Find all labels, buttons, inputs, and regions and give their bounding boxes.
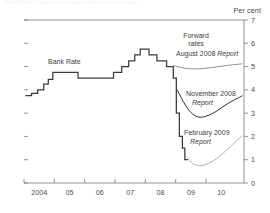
y-axis-tick-label: 1: [251, 155, 255, 164]
x-axis-tick-label: 07: [126, 188, 134, 197]
november-report-annotation-line2: Report: [192, 99, 214, 107]
august-report-annotation: August 2008 Report: [176, 50, 239, 58]
y-axis-tick-label: 5: [251, 62, 255, 71]
y-axis-tick-label: 3: [251, 109, 255, 118]
february-report-annotation-line1: February 2009: [184, 129, 230, 137]
february-report-annotation-line2: Report: [190, 138, 212, 146]
y-axis-tick-label: 2: [251, 132, 255, 141]
series-line-1: [173, 64, 242, 69]
labels-layer: 012345672004050607080910: [31, 16, 255, 197]
august-report-italic: Report: [217, 50, 239, 58]
y-axis-tick-label: 6: [251, 39, 255, 48]
y-axis-tick-label: 4: [251, 85, 255, 94]
forward-rates-annotation-line1: Forward: [183, 32, 209, 39]
x-axis-tick-label: 09: [187, 188, 195, 197]
series-line-0: [26, 49, 188, 160]
november-report-annotation-line1: November 2008: [186, 90, 236, 97]
series-layer: [26, 49, 243, 165]
x-axis-tick-label: 10: [217, 188, 225, 197]
axes-layer: [24, 20, 248, 183]
chart-svg: 012345672004050607080910 Bank Rate Forwa…: [0, 0, 270, 213]
august-report-plain: August 2008: [176, 50, 217, 58]
bank-rate-annotation: Bank Rate: [48, 58, 81, 65]
y-axis-tick-label: 0: [251, 179, 255, 188]
x-axis-tick-label: 05: [66, 188, 74, 197]
x-axis-tick-label: 2004: [31, 188, 47, 197]
x-axis-tick-label: 06: [96, 188, 104, 197]
chart-container: Chart Bank Rate and forward market inter…: [0, 0, 270, 213]
forward-rates-annotation-line2: rates: [188, 40, 204, 47]
x-axis-tick-label: 08: [157, 188, 165, 197]
y-axis-tick-label: 7: [251, 16, 255, 25]
